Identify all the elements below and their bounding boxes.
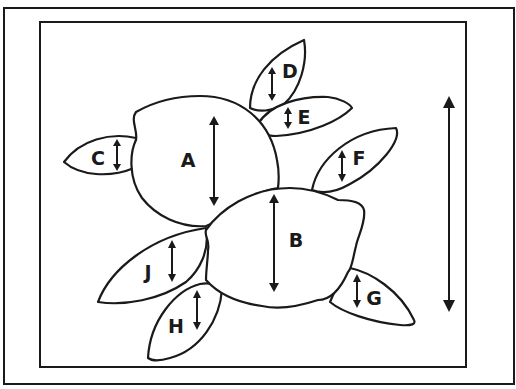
label-f: F	[353, 147, 366, 169]
label-a: A	[181, 149, 196, 171]
label-h: H	[168, 315, 184, 337]
label-e: E	[298, 106, 311, 128]
overall-height-arrow	[443, 96, 455, 312]
label-j: J	[142, 261, 151, 283]
label-g: G	[366, 287, 382, 309]
label-b: B	[289, 229, 303, 251]
label-d: D	[282, 60, 298, 82]
lemon-leaf-diagram: A B C D E F G H J	[0, 0, 516, 389]
label-c: C	[91, 147, 105, 169]
